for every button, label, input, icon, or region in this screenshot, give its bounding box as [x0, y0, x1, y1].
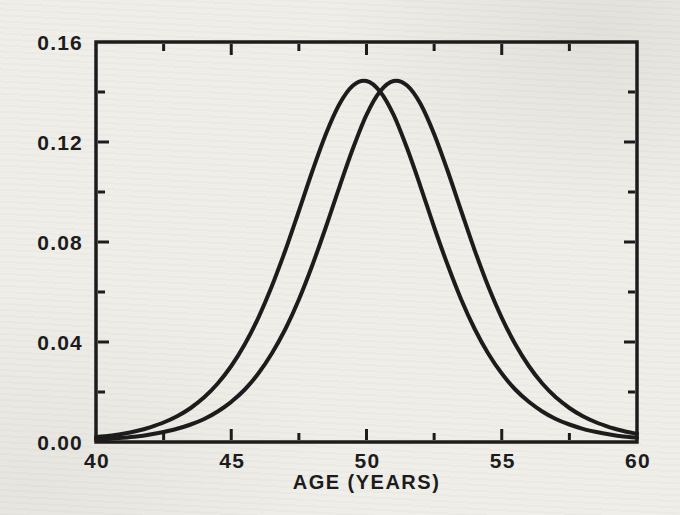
x-tick-label: 50 — [355, 449, 381, 472]
y-tick-label: 0.04 — [37, 331, 83, 354]
y-tick-label: 0.16 — [37, 31, 83, 54]
density-curve-right-curve — [96, 81, 637, 440]
x-tick-label: 60 — [625, 449, 651, 472]
y-tick-label: 0.08 — [37, 231, 83, 254]
density-curve-left-curve — [96, 81, 637, 438]
x-tick-label: 55 — [490, 449, 516, 472]
x-axis-title: AGE (YEARS) — [96, 471, 637, 494]
plot-frame — [96, 42, 637, 442]
scanned-figure-page: 0.000.040.080.120.164045505560 AGE (YEAR… — [0, 0, 680, 515]
x-tick-label: 40 — [84, 449, 110, 472]
density-chart: 0.000.040.080.120.164045505560 — [0, 0, 680, 515]
y-tick-label: 0.00 — [37, 431, 83, 454]
x-tick-label: 45 — [219, 449, 245, 472]
y-tick-label: 0.12 — [37, 131, 83, 154]
